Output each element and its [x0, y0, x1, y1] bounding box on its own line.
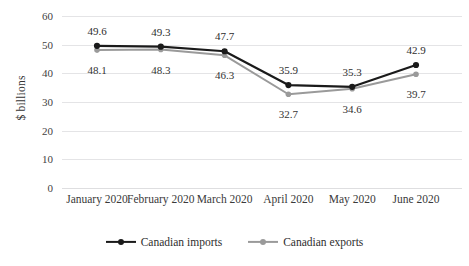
series-layer [62, 16, 462, 188]
y-tick-label: 60 [42, 11, 53, 22]
y-tick-label: 40 [42, 68, 53, 79]
legend-item-imports[interactable]: Canadian imports [106, 236, 222, 248]
legend-marker-icon [106, 237, 136, 247]
y-tick-label: 30 [42, 97, 53, 108]
data-point-marker [349, 84, 355, 90]
data-point-label: 34.6 [343, 103, 362, 114]
y-tick-label: 20 [42, 125, 53, 136]
data-point-label: 42.9 [406, 45, 425, 56]
data-point-label: 39.7 [406, 89, 425, 100]
data-point-marker [222, 48, 228, 54]
data-point-marker [285, 82, 291, 88]
x-tick-label: June 2020 [378, 192, 454, 206]
gridline [62, 188, 462, 189]
data-point-label: 47.7 [215, 31, 234, 42]
data-point-label: 49.6 [87, 25, 106, 36]
data-point-label: 48.3 [151, 64, 170, 75]
legend-label: Canadian imports [141, 236, 222, 248]
legend-label: Canadian exports [283, 236, 363, 248]
legend-item-exports[interactable]: Canadian exports [248, 236, 363, 248]
data-point-marker [413, 62, 419, 68]
series-line-imports [97, 46, 416, 87]
data-point-label: 35.3 [343, 66, 362, 77]
x-axis-labels: January 2020February 2020March 2020April… [62, 192, 462, 232]
y-tick-label: 50 [42, 39, 53, 50]
chart-legend: Canadian importsCanadian exports [0, 236, 469, 248]
y-tick-label: 0 [48, 183, 54, 194]
series-line-exports [97, 50, 416, 95]
data-point-label: 35.9 [279, 65, 298, 76]
legend-marker-icon [248, 237, 278, 247]
data-point-label: 48.1 [87, 65, 106, 76]
data-point-marker [286, 91, 292, 97]
data-point-marker [413, 71, 419, 77]
data-point-label: 32.7 [279, 109, 298, 120]
data-point-marker [94, 43, 100, 49]
y-axis-title: $ billions [15, 53, 27, 143]
data-point-label: 46.3 [215, 70, 234, 81]
data-point-label: 49.3 [151, 26, 170, 37]
plot-area: 010203040506049.649.347.735.935.342.948.… [62, 16, 462, 188]
data-point-marker [158, 44, 164, 50]
y-tick-label: 10 [42, 154, 53, 165]
line-chart: $ billions 010203040506049.649.347.735.9… [0, 0, 469, 266]
